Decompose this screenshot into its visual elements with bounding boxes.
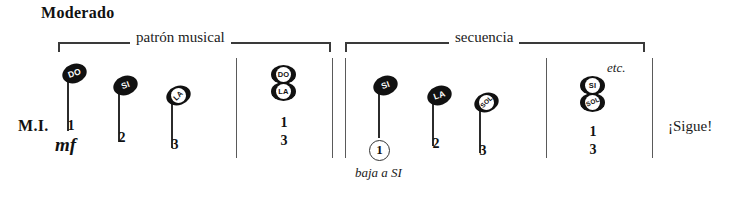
section-label-patron-musical: patrón musical <box>130 29 231 46</box>
hand-label-left-hand: M.I. <box>18 117 49 135</box>
note-head-si: SI <box>371 72 401 98</box>
fingering-3: 3 <box>168 137 182 153</box>
note-head-label: SI <box>380 80 391 91</box>
fingering-chord-lower: 3 <box>271 133 297 149</box>
fingering-2: 2 <box>115 130 129 146</box>
section-bracket-secuencia: secuencia <box>345 30 645 44</box>
note-head-la: LA <box>425 82 455 108</box>
note-head-la: LA <box>271 82 296 101</box>
note-head-disc: DO <box>276 67 291 82</box>
note-head-sol: SOL <box>580 93 605 112</box>
chord-do-la: DO LA <box>271 65 297 105</box>
note-head-label: LA <box>278 88 288 96</box>
note-head-label: DO <box>278 71 290 79</box>
bracket-tick-right <box>643 42 645 52</box>
note-head-disc: SOL <box>585 95 600 110</box>
barline-3 <box>345 58 346 158</box>
etc-label: etc. <box>607 60 625 76</box>
chord-si-sol: SI SOL <box>580 76 606 116</box>
note-head-sol: SOL <box>472 89 502 115</box>
barline-1 <box>236 58 237 158</box>
fingering-3: 3 <box>476 143 490 159</box>
fingering-chord-lower: 3 <box>580 142 606 158</box>
barline-4 <box>546 58 547 158</box>
section-bracket-patron-musical: patrón musical <box>58 30 331 44</box>
bracket-tick-right <box>329 42 331 52</box>
section-label-secuencia: secuencia <box>449 29 519 46</box>
continue-label-sigue: ¡Sigue! <box>668 118 712 135</box>
fingering-1: 1 <box>64 118 78 134</box>
note-head-label: SOL <box>585 97 600 109</box>
fingering-2: 2 <box>429 136 443 152</box>
note-head-label: LA <box>433 90 447 102</box>
note-head-si: SI <box>111 72 141 98</box>
note-head-disc: SI <box>585 78 600 93</box>
note-head-do: DO <box>60 60 90 86</box>
note-head-disc: SOL <box>477 93 496 112</box>
note-head-label: SI <box>120 80 131 91</box>
note-head-disc: LA <box>169 86 188 105</box>
fingering-chord-upper: 1 <box>580 124 606 140</box>
note-head-label: LA <box>172 89 185 102</box>
cue-label-baja-a-si: baja a SI <box>355 165 402 181</box>
dynamic-marking-mezzo-forte: mf <box>55 134 76 156</box>
note-head-label: SI <box>589 82 597 90</box>
fingering-chord-upper: 1 <box>271 115 297 131</box>
note-stem <box>378 88 380 138</box>
note-head-disc: LA <box>276 84 291 99</box>
barline-2 <box>332 58 333 158</box>
barline-5 <box>652 58 653 158</box>
note-head-la: LA <box>164 82 194 108</box>
fingering-1-circled: 1 <box>369 140 390 161</box>
tempo-marking: Moderado <box>41 4 115 22</box>
music-notation-sheet: Moderado patrón musical secuencia M.I. m… <box>0 0 730 197</box>
note-head-label: DO <box>67 67 82 79</box>
note-head-label: SOL <box>479 95 494 109</box>
